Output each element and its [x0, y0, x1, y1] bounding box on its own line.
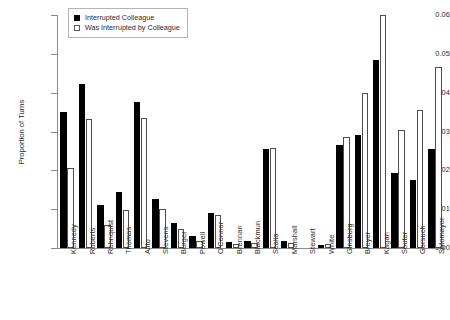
- chart-legend: Interrupted Colleague Was Interrupted by…: [68, 8, 188, 38]
- bar-group: [299, 15, 312, 248]
- legend-swatch-hollow-icon: [74, 25, 80, 31]
- legend-item: Was Interrupted by Colleague: [74, 23, 180, 33]
- legend-item-label: Interrupted Colleague: [85, 14, 154, 22]
- bar: [189, 236, 195, 248]
- bar-group: [373, 15, 386, 248]
- bar: [263, 149, 269, 248]
- bar: [97, 205, 103, 248]
- x-axis-tick-label: Brennan: [236, 225, 244, 254]
- x-axis-tick-label: Kennedy: [70, 224, 78, 254]
- x-axis-tick-label: Blackmun: [254, 221, 262, 254]
- bar: [208, 213, 214, 248]
- x-axis-tick-label: Ginsburg: [346, 223, 354, 254]
- bar: [391, 173, 397, 248]
- x-axis-tick-label: Burger: [180, 231, 188, 254]
- bar-group: [208, 15, 221, 248]
- bar-group: [410, 15, 423, 248]
- bar: [410, 180, 416, 248]
- x-axis-tick-label: O'Connor: [217, 222, 225, 254]
- bar-group: [171, 15, 184, 248]
- bar: [134, 102, 140, 248]
- x-axis-tick-label: Thomas: [125, 227, 133, 254]
- bar: [373, 60, 379, 248]
- x-axis-tick-label: Stevens: [162, 227, 170, 254]
- x-axis-tick-label: Powell: [199, 232, 207, 254]
- bar: [281, 241, 287, 248]
- legend-swatch-filled-icon: [74, 15, 80, 21]
- x-axis-tick-label: Rehnquist: [107, 220, 115, 254]
- bar-group: [189, 15, 202, 248]
- bar-chart: Proportion of Turns 0.000.010.020.030.04…: [0, 0, 450, 320]
- bar-group: [60, 15, 73, 248]
- bar-group: [226, 15, 239, 248]
- bar: [428, 149, 434, 248]
- x-axis-tick-label: Souter: [401, 232, 409, 254]
- y-axis-title: Proportion of Turns: [18, 72, 26, 192]
- bar: [141, 118, 147, 248]
- bar: [171, 223, 177, 248]
- x-axis-tick-label: Stewart: [309, 228, 317, 254]
- bar-group: [428, 15, 441, 248]
- bar: [116, 192, 122, 248]
- bar: [152, 199, 158, 248]
- bar: [60, 112, 66, 248]
- y-axis-tick: [51, 209, 57, 210]
- bar-group: [391, 15, 404, 248]
- x-axis-tick-label: White: [328, 235, 336, 254]
- x-axis-tick-label: Marshall: [291, 225, 299, 254]
- y-axis-tick: [51, 132, 57, 133]
- bar-group: [79, 15, 92, 248]
- bar: [380, 15, 386, 248]
- x-axis-tick-label: Gorsuch: [419, 225, 427, 254]
- x-axis-tick-label: Scalia: [272, 233, 280, 254]
- y-axis-tick: [51, 54, 57, 55]
- x-axis-tick-label: Kagan: [383, 232, 391, 254]
- bar: [244, 241, 250, 248]
- bar-group: [244, 15, 257, 248]
- y-axis-tick: [51, 170, 57, 171]
- legend-item-label: Was Interrupted by Colleague: [85, 24, 180, 32]
- bar-group: [281, 15, 294, 248]
- y-axis-tick: [51, 15, 57, 16]
- bar: [355, 135, 361, 248]
- bar-group: [152, 15, 165, 248]
- x-axis-tick-label: Roberts: [89, 227, 97, 254]
- y-axis-tick: [51, 93, 57, 94]
- x-axis-tick-label: Alito: [144, 239, 152, 254]
- legend-item: Interrupted Colleague: [74, 13, 180, 23]
- x-axis-tick-label: Sotomayor: [438, 217, 446, 254]
- bar-group: [116, 15, 129, 248]
- plot-area: [58, 15, 444, 248]
- bar-group: [336, 15, 349, 248]
- bar-group: [318, 15, 331, 248]
- x-axis-tick-label: Breyer: [364, 232, 372, 254]
- bar: [336, 145, 342, 248]
- bar-group: [134, 15, 147, 248]
- bar-group: [355, 15, 368, 248]
- bar-group: [263, 15, 276, 248]
- bar: [362, 93, 368, 248]
- bar: [79, 84, 85, 248]
- bar: [398, 130, 404, 248]
- bar-group: [97, 15, 110, 248]
